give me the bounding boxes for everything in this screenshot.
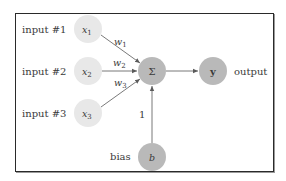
input-node-1: x1 [74,15,102,43]
perceptron-diagram: x1 x2 x3 input #1 input #2 input #3 w1 w… [0,0,286,181]
svg-text:y: y [209,66,217,77]
input-label-3: input #3 [22,108,66,119]
bias-node: b [138,143,166,171]
output-node: y [199,57,227,85]
bias-weight-label: 1 [139,109,145,120]
weight-label-1: w1 [114,36,127,49]
output-label: output [234,66,267,77]
input-node-2: x2 [74,57,102,85]
bias-label: bias [110,151,131,162]
svg-text:b: b [149,152,155,163]
input-label-2: input #2 [22,66,66,77]
weight-label-2: w2 [113,57,126,70]
input-node-3: x3 [74,99,102,127]
svg-text:Σ: Σ [148,66,155,77]
sum-node: Σ [138,57,166,85]
weight-label-3: w3 [114,77,127,90]
input-label-1: input #1 [22,24,66,35]
